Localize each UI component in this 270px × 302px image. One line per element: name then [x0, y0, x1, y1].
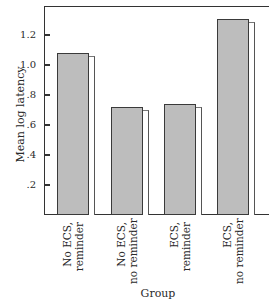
- y-tick: [44, 34, 50, 35]
- x-tick-label-line: no reminder: [127, 222, 139, 284]
- x-tick-label-line: No ECS,: [61, 222, 73, 284]
- y-tick: [44, 94, 50, 95]
- x-tick-label: ECS,no reminder: [221, 222, 245, 284]
- y-tick: [44, 64, 50, 65]
- y-tick: [44, 124, 50, 125]
- x-tick-label-line: ECS,: [168, 222, 180, 284]
- bar: [57, 53, 89, 215]
- y-tick-label: 1.0: [20, 60, 36, 70]
- bar: [164, 104, 196, 215]
- y-tick-label: .8: [26, 90, 36, 100]
- y-tick: [44, 154, 50, 155]
- x-axis-title: Group: [0, 287, 270, 300]
- bar: [111, 107, 143, 215]
- y-tick-label: .6: [26, 120, 36, 130]
- bar-shadow: [195, 107, 202, 215]
- bar: [217, 19, 249, 216]
- bar-shadow: [248, 22, 255, 216]
- y-tick-label: .4: [26, 150, 36, 160]
- x-tick-label-line: reminder: [180, 222, 192, 284]
- y-tick-label: .2: [26, 180, 36, 190]
- x-tick-label-line: ECS,: [221, 222, 233, 284]
- bar-shadow: [142, 110, 149, 215]
- y-axis-label: Mean log latency: [14, 55, 27, 175]
- x-tick-label-line: No ECS,: [115, 222, 127, 284]
- x-tick-label-line: reminder: [73, 222, 85, 284]
- x-tick-label: ECS,reminder: [168, 222, 192, 284]
- y-tick-label: 1.2: [20, 30, 36, 40]
- y-tick: [44, 184, 50, 185]
- x-tick-label: No ECS,no reminder: [115, 222, 139, 284]
- bar-shadow: [88, 56, 95, 215]
- x-tick-label-line: no reminder: [233, 222, 245, 284]
- x-tick-label: No ECS,reminder: [61, 222, 85, 284]
